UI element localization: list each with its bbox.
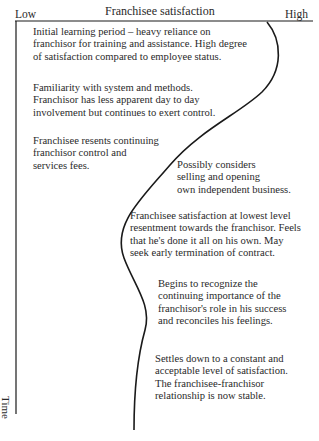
note-line: The franchisee-franchisor	[155, 378, 288, 390]
note-line: involvement but continues to exert contr…	[33, 107, 215, 119]
note-line: Franchisee satisfaction at lowest level	[130, 210, 301, 222]
note-line: resentment towards the franchisor. Feels	[130, 222, 301, 234]
note-line: Initial learning period – heavy reliance…	[33, 26, 247, 38]
note-line: that he's done it all on his own. May	[130, 235, 301, 247]
note-line: Settles down to a constant and	[155, 353, 288, 365]
note-line: and reconciles his feelings.	[158, 315, 286, 327]
note-line: Familiarity with system and methods.	[33, 82, 215, 94]
note-line: services fees.	[33, 160, 159, 172]
note-line: continuing importance of the	[158, 290, 286, 302]
stage-note-initial-learning: Initial learning period – heavy reliance…	[33, 26, 247, 63]
note-line: of satisfaction compared to employee sta…	[33, 51, 247, 63]
note-line: Franchisor has less apparent day to day	[33, 94, 215, 106]
stage-note-familiarity: Familiarity with system and methods. Fra…	[33, 82, 215, 119]
note-line: Possibly considers	[177, 159, 291, 171]
note-line: seek early termination of contract.	[130, 247, 301, 259]
stage-note-considers-selling: Possibly considers selling and opening o…	[177, 159, 291, 196]
note-line: selling and opening	[177, 171, 291, 183]
note-line: franchisor for training and assistance. …	[33, 38, 247, 50]
note-line: franchisor control and	[33, 147, 159, 159]
note-line: Franchisee resents continuing	[33, 135, 159, 147]
stage-note-lowest-satisfaction: Franchisee satisfaction at lowest level …	[130, 210, 301, 260]
note-line: acceptable level of satisfaction.	[155, 365, 288, 377]
note-line: own independent business.	[177, 184, 291, 196]
note-line: relationship is now stable.	[155, 390, 288, 402]
note-line: franchisor's role in his success	[158, 303, 286, 315]
note-line: Begins to recognize the	[158, 278, 286, 290]
stage-note-recognizes-importance: Begins to recognize the continuing impor…	[158, 278, 286, 328]
stage-note-stable-relationship: Settles down to a constant and acceptabl…	[155, 353, 288, 403]
stage-note-resents-control: Franchisee resents continuing franchisor…	[33, 135, 159, 172]
